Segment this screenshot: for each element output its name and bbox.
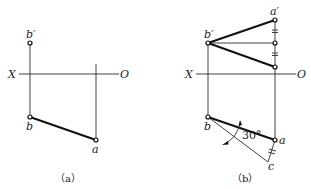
axis-o-label: O bbox=[297, 68, 306, 81]
arrow-left-icon bbox=[222, 141, 229, 145]
figure-a: X O b′ b a （a） bbox=[7, 28, 129, 184]
line-ac bbox=[268, 140, 275, 162]
label-a: a bbox=[92, 143, 99, 156]
equal-length-marks-ac bbox=[268, 149, 276, 154]
label-b-prime: b′ bbox=[26, 28, 36, 41]
axis-x-label: X bbox=[184, 68, 194, 81]
point-a bbox=[273, 138, 277, 142]
label-c: c bbox=[268, 160, 274, 173]
caption-a: （a） bbox=[55, 173, 81, 184]
line-b-prime-alternate bbox=[208, 43, 275, 67]
label-b: b bbox=[26, 120, 33, 133]
label-a-prime: a′ bbox=[270, 5, 280, 18]
label-a: a bbox=[279, 134, 286, 147]
line-ab bbox=[30, 117, 96, 140]
figure-b: X O 30° bbox=[184, 5, 306, 184]
axis-x-label: X bbox=[7, 68, 17, 81]
line-b-prime-a-prime bbox=[208, 20, 275, 43]
label-b-prime: b′ bbox=[204, 28, 214, 41]
point-a-prime bbox=[273, 18, 277, 22]
point-mid bbox=[273, 41, 277, 45]
point-b-prime bbox=[28, 41, 32, 45]
arrow-up-icon bbox=[239, 120, 243, 126]
label-b: b bbox=[204, 120, 211, 133]
point-lower bbox=[273, 65, 277, 69]
axis-o-label: O bbox=[120, 68, 129, 81]
point-a bbox=[94, 138, 98, 142]
point-b-prime bbox=[206, 41, 210, 45]
caption-b: （b） bbox=[232, 173, 258, 184]
angle-label: 30° bbox=[242, 129, 262, 142]
point-b bbox=[28, 115, 32, 119]
point-b bbox=[206, 115, 210, 119]
projection-diagram: X O b′ b a （a） X O bbox=[0, 0, 311, 189]
